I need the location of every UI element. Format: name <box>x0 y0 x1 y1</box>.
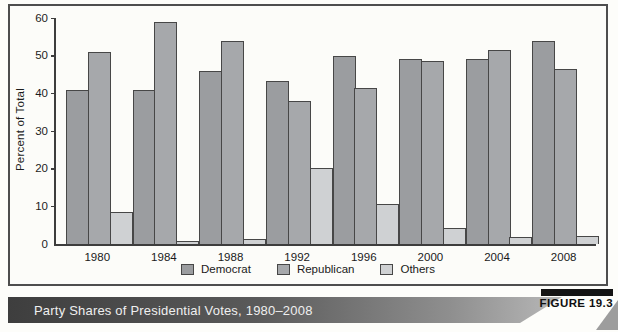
y-tick-label: 10 <box>35 201 48 213</box>
republican-bar-1988 <box>221 41 244 244</box>
bar-group-1984: 1984 <box>133 18 200 244</box>
republican-bar-1996 <box>354 88 377 244</box>
y-tick-label: 20 <box>35 163 48 175</box>
others-bar-2008 <box>576 236 599 244</box>
bar-group-1988: 1988 <box>199 18 266 244</box>
caption-text: Party Shares of Presidential Votes, 1980… <box>8 303 313 318</box>
others-bar-2000 <box>443 228 466 244</box>
figure-tag-label: FIGURE 19.3 <box>539 297 613 309</box>
bar-group-1980: 1980 <box>66 18 133 244</box>
y-tick-mark <box>51 206 56 208</box>
bar-group-1996: 1996 <box>333 18 400 244</box>
y-tick-label: 40 <box>35 88 48 100</box>
republican-bar-2008 <box>554 69 577 244</box>
y-tick-mark <box>51 131 56 133</box>
legend-label: Republican <box>297 263 355 275</box>
democrat-bar-2004 <box>466 59 489 244</box>
republican-bar-1984 <box>154 22 177 244</box>
others-bar-2004 <box>509 237 532 244</box>
others-bar-1980 <box>110 212 133 244</box>
republican-bar-1992 <box>288 101 311 244</box>
y-tick-label: 60 <box>35 12 48 24</box>
others-bar-1992 <box>310 168 333 244</box>
democrat-bar-1992 <box>266 81 289 244</box>
republican-bar-1980 <box>88 52 111 244</box>
democrat-bar-1980 <box>66 90 89 244</box>
democrat-bar-2000 <box>399 59 422 244</box>
bar-group-1992: 1992 <box>266 18 333 244</box>
others-bar-1984 <box>176 241 199 244</box>
legend-item-others: Others <box>380 263 435 275</box>
caption-bar: Party Shares of Presidential Votes, 1980… <box>8 297 562 323</box>
democrat-bar-1988 <box>199 71 222 244</box>
legend-label: Democrat <box>201 263 251 275</box>
bar-group-2008: 2008 <box>532 18 599 244</box>
democrat-bar-1996 <box>333 56 356 244</box>
others-bar-1988 <box>243 239 266 244</box>
chart-frame: Percent of Total 01020304050601980198419… <box>8 4 608 286</box>
democrat-bar-2008 <box>532 41 555 244</box>
figure-tag: FIGURE 19.3 <box>539 289 613 309</box>
figure-tag-bar <box>541 289 613 296</box>
bar-group-2000: 2000 <box>399 18 466 244</box>
democrat-swatch <box>181 264 194 275</box>
republican-swatch <box>277 264 290 275</box>
y-tick-label: 30 <box>35 125 48 137</box>
legend-label: Others <box>400 263 435 275</box>
democrat-bar-1984 <box>133 90 156 244</box>
legend-item-republican: Republican <box>277 263 355 275</box>
legend: DemocratRepublicanOthers <box>10 260 606 278</box>
plot-area: 0102030405060198019841988199219962000200… <box>54 18 596 246</box>
others-swatch <box>380 264 393 275</box>
others-bar-1996 <box>376 204 399 244</box>
y-axis-title: Percent of Total <box>12 16 28 244</box>
y-tick-mark <box>51 55 56 57</box>
y-tick-mark <box>51 18 56 20</box>
republican-bar-2004 <box>488 50 511 244</box>
y-tick-mark <box>51 168 56 170</box>
bar-group-2004: 2004 <box>466 18 533 244</box>
y-tick-label: 0 <box>42 238 48 250</box>
y-tick-label: 50 <box>35 50 48 62</box>
y-tick-mark <box>51 93 56 95</box>
republican-bar-2000 <box>421 61 444 244</box>
legend-item-democrat: Democrat <box>181 263 251 275</box>
